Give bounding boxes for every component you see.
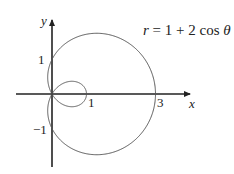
limacon-diagram: y x 1 −1 1 3 r = 1 + 2 cos θ	[0, 0, 234, 174]
equation-label: r = 1 + 2 cos θ	[143, 22, 231, 38]
y-axis-label: y	[39, 13, 47, 28]
tick-x-1: 1	[88, 95, 95, 110]
x-axis-label: x	[188, 96, 195, 111]
tick-x-3: 3	[157, 95, 164, 110]
tick-y-1: 1	[38, 52, 45, 67]
tick-y-neg1: −1	[33, 122, 47, 137]
